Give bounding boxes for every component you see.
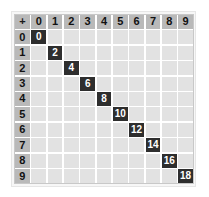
sum-cell-empty — [80, 30, 95, 44]
column-header: 6 — [129, 15, 144, 29]
column-header: 3 — [80, 15, 95, 29]
sum-cell-empty — [48, 92, 63, 106]
sum-cell-empty — [97, 138, 112, 152]
sum-cell-empty — [48, 107, 63, 121]
sum-cell-empty — [146, 92, 161, 106]
column-header: 9 — [178, 15, 193, 29]
sum-cell-empty — [31, 169, 46, 183]
sum-cell-empty — [80, 92, 95, 106]
sum-cell-empty — [80, 107, 95, 121]
sum-cell-empty — [162, 61, 177, 75]
sum-cell-empty — [64, 123, 79, 137]
sum-cell-empty — [31, 46, 46, 60]
sum-cell-empty — [129, 138, 144, 152]
sum-cell-filled: 16 — [162, 154, 177, 168]
sum-cell-empty — [80, 61, 95, 75]
addition-table: +01234567890012243648510612714816918 — [14, 14, 194, 184]
sum-cell-empty — [80, 46, 95, 60]
sum-cell-empty — [31, 92, 46, 106]
sum-cell-empty — [64, 138, 79, 152]
sum-cell-empty — [129, 169, 144, 183]
column-header: 7 — [146, 15, 161, 29]
sum-cell-empty — [97, 46, 112, 60]
sum-cell-empty — [178, 46, 193, 60]
row-header: 2 — [15, 61, 30, 75]
sum-cell-empty — [113, 154, 128, 168]
sum-cell-empty — [178, 107, 193, 121]
sum-cell-filled: 6 — [80, 77, 95, 91]
sum-cell-empty — [97, 77, 112, 91]
sum-cell-empty — [129, 154, 144, 168]
sum-cell-filled: 12 — [129, 123, 144, 137]
row-header: 8 — [15, 154, 30, 168]
sum-cell-empty — [97, 123, 112, 137]
sum-cell-empty — [48, 138, 63, 152]
row-header: 4 — [15, 92, 30, 106]
sum-cell-empty — [129, 46, 144, 60]
sum-cell-empty — [162, 107, 177, 121]
sum-cell-empty — [146, 154, 161, 168]
sum-cell-empty — [64, 154, 79, 168]
sum-cell-empty — [146, 30, 161, 44]
sum-cell-empty — [178, 154, 193, 168]
sum-cell-empty — [64, 92, 79, 106]
sum-cell-empty — [64, 30, 79, 44]
sum-cell-empty — [178, 92, 193, 106]
sum-cell-empty — [146, 77, 161, 91]
sum-cell-empty — [80, 138, 95, 152]
sum-cell-empty — [146, 123, 161, 137]
sum-cell-filled: 14 — [146, 138, 161, 152]
sum-cell-empty — [113, 169, 128, 183]
sum-cell-empty — [146, 61, 161, 75]
row-header: 1 — [15, 46, 30, 60]
row-header: 9 — [15, 169, 30, 183]
sum-cell-empty — [48, 169, 63, 183]
sum-cell-empty — [162, 123, 177, 137]
sum-cell-empty — [64, 107, 79, 121]
column-header: 8 — [162, 15, 177, 29]
sum-cell-empty — [97, 169, 112, 183]
sum-cell-filled: 10 — [113, 107, 128, 121]
operator-corner-cell: + — [15, 15, 30, 29]
row-header: 0 — [15, 30, 30, 44]
sum-cell-empty — [64, 77, 79, 91]
sum-cell-filled: 2 — [48, 46, 63, 60]
row-header: 6 — [15, 123, 30, 137]
column-header: 2 — [64, 15, 79, 29]
sum-cell-empty — [178, 61, 193, 75]
sum-cell-empty — [64, 46, 79, 60]
column-header: 1 — [48, 15, 63, 29]
sum-cell-filled: 4 — [64, 61, 79, 75]
sum-cell-empty — [31, 123, 46, 137]
sum-cell-empty — [113, 123, 128, 137]
sum-cell-empty — [162, 30, 177, 44]
sum-cell-empty — [97, 61, 112, 75]
sum-cell-empty — [31, 77, 46, 91]
column-header: 4 — [97, 15, 112, 29]
column-header: 0 — [31, 15, 46, 29]
sum-cell-empty — [113, 138, 128, 152]
sum-cell-empty — [113, 46, 128, 60]
sum-cell-empty — [48, 30, 63, 44]
sum-cell-empty — [31, 61, 46, 75]
sum-cell-empty — [48, 154, 63, 168]
sum-cell-empty — [162, 46, 177, 60]
row-header: 3 — [15, 77, 30, 91]
sum-cell-empty — [162, 169, 177, 183]
sum-cell-empty — [129, 30, 144, 44]
row-header: 7 — [15, 138, 30, 152]
sum-cell-empty — [80, 123, 95, 137]
row-header: 5 — [15, 107, 30, 121]
sum-cell-empty — [146, 169, 161, 183]
sum-cell-empty — [48, 61, 63, 75]
sum-cell-empty — [31, 138, 46, 152]
sum-cell-empty — [31, 154, 46, 168]
sum-cell-empty — [178, 123, 193, 137]
sum-cell-empty — [97, 154, 112, 168]
sum-cell-empty — [97, 107, 112, 121]
sum-cell-empty — [129, 77, 144, 91]
sum-cell-empty — [162, 92, 177, 106]
sum-cell-filled: 8 — [97, 92, 112, 106]
sum-cell-empty — [80, 154, 95, 168]
sum-cell-empty — [113, 61, 128, 75]
